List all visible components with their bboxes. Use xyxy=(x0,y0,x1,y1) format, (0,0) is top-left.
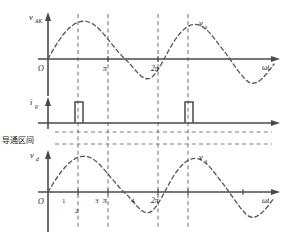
ig-pulse-2 xyxy=(185,102,193,123)
ig-y-label: i xyxy=(30,97,33,107)
vak-tick-label-pi: π xyxy=(103,64,107,73)
panel-ig: i g 导通区间 xyxy=(2,97,280,145)
vak-y-label-sub: AK xyxy=(34,18,42,24)
vd-region-number-1: 1 xyxy=(62,197,66,205)
vd-tick-label-pi: π xyxy=(103,196,107,205)
panel-vd: v d O 1 2 3 4 π 2π ωt v s xyxy=(30,150,280,232)
waveform-figure: v AK O π 2π ωt v s i g 导通区间 xyxy=(0,0,289,238)
panel-vak: v AK O π 2π ωt v s xyxy=(29,12,280,96)
vd-sine-curve xyxy=(48,156,274,217)
vd-region-number-3: 3 xyxy=(95,197,99,205)
vak-y-arrow xyxy=(45,12,51,21)
vd-tick-label-2pi: 2π xyxy=(151,196,159,205)
vak-tick-label-2pi: 2π xyxy=(151,64,159,73)
vd-origin-label: O xyxy=(38,197,44,206)
vd-curve-label-sub: s xyxy=(205,158,207,164)
vd-curve-label: v xyxy=(199,152,203,162)
vd-y-label: v xyxy=(30,150,34,160)
ig-x-arrow xyxy=(271,120,280,126)
vd-y-label-sub: d xyxy=(36,156,39,162)
vak-curve-label: v xyxy=(199,18,203,28)
ig-y-label-sub: g xyxy=(35,103,38,109)
figure-svg: v AK O π 2π ωt v s i g 导通区间 xyxy=(0,0,289,238)
vd-region-number-4: 4 xyxy=(131,197,135,205)
vak-x-label: ωt xyxy=(262,63,270,72)
ig-pulse-1 xyxy=(75,102,83,123)
vak-curve-label-sub: s xyxy=(205,24,207,30)
vak-y-label: v xyxy=(29,12,33,22)
vd-y-arrow xyxy=(45,150,51,159)
conduction-interval-label: 导通区间 xyxy=(2,135,34,145)
vd-x-arrow xyxy=(271,189,280,195)
vak-x-arrow xyxy=(271,56,280,62)
conduction-interval-band xyxy=(55,132,272,144)
vd-region-number-2: 2 xyxy=(75,207,79,215)
vd-x-label: ωt xyxy=(262,196,270,205)
vak-sine-curve xyxy=(48,21,274,83)
vak-origin-label: O xyxy=(38,64,44,73)
ig-y-arrow xyxy=(45,97,51,106)
